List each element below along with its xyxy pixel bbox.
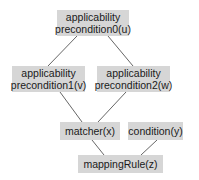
- edge-u-w: [108, 36, 133, 66]
- node-label: condition(y): [128, 125, 182, 138]
- node-applicability-precondition1: applicability precondition1(v): [12, 66, 85, 92]
- node-label-line1: applicability: [106, 67, 160, 80]
- edge-u-v: [48, 36, 77, 66]
- node-label-line1: applicability: [21, 67, 75, 80]
- edge-w-x: [98, 92, 126, 122]
- node-label-line2: precondition1(v): [11, 79, 86, 92]
- edge-y-z: [141, 140, 157, 155]
- node-label: mappingRule(z): [83, 158, 157, 171]
- edge-v-x: [60, 92, 82, 122]
- node-condition: condition(y): [128, 122, 183, 140]
- node-label-line2: precondition2(w): [95, 79, 173, 92]
- node-applicability-precondition2: applicability precondition2(w): [97, 66, 170, 92]
- node-mapping-rule: mappingRule(z): [78, 155, 163, 173]
- node-label: matcher(x): [65, 125, 115, 138]
- node-label-line2: precondition0(u): [55, 23, 131, 36]
- edge-x-z: [92, 140, 104, 155]
- node-matcher: matcher(x): [60, 122, 120, 140]
- node-label-line1: applicability: [66, 11, 120, 24]
- node-applicability-precondition0: applicability precondition0(u): [57, 10, 129, 36]
